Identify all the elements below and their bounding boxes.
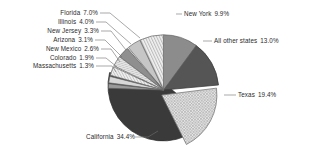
slice-label-massachusetts-name: Massachusetts xyxy=(33,62,76,69)
slice-label-new-york: New York9.9% xyxy=(184,10,229,18)
slice-label-texas-value: 19.4% xyxy=(258,91,276,98)
slice-label-florida: Florida7.0% xyxy=(60,9,98,17)
slice-label-illinois-name: Illinois xyxy=(58,18,76,25)
slice-label-massachusetts: Massachusetts1.3% xyxy=(33,62,94,70)
slice-label-illinois: Illinois4.0% xyxy=(58,18,94,26)
slice-label-all-other-states-name: All other states xyxy=(214,37,257,44)
slice-label-arizona-name: Arizona xyxy=(53,36,75,43)
slice-label-texas: Texas19.4% xyxy=(238,91,276,99)
slice-label-new-mexico-name: New Mexico xyxy=(46,45,81,52)
slice-label-new-jersey-value: 3.3% xyxy=(84,27,99,34)
slice-label-colorado: Colorado1.9% xyxy=(50,54,94,62)
slice-label-florida-value: 7.0% xyxy=(83,9,98,16)
leader-arizona xyxy=(95,40,122,57)
slice-label-arizona: Arizona3.1% xyxy=(53,36,93,44)
leader-illinois xyxy=(96,22,131,44)
slice-label-new-jersey: New Jersey3.3% xyxy=(47,27,99,35)
slice-label-all-other-states: All other states13.0% xyxy=(214,37,279,45)
leader-new-jersey xyxy=(101,31,126,50)
slice-label-california-value: 34.4% xyxy=(117,133,135,140)
slice-label-new-york-name: New York xyxy=(184,10,211,17)
slice-label-new-mexico: New Mexico2.6% xyxy=(46,45,99,53)
pie-chart-graphic xyxy=(0,0,313,159)
slice-label-massachusetts-value: 1.3% xyxy=(79,62,94,69)
slice-label-california-name: California xyxy=(86,133,114,140)
slice-label-florida-name: Florida xyxy=(60,9,80,16)
slice-label-california: California34.4% xyxy=(86,133,135,141)
slice-label-texas-name: Texas xyxy=(238,91,255,98)
slice-label-colorado-name: Colorado xyxy=(50,54,76,61)
slice-label-new-jersey-name: New Jersey xyxy=(47,27,81,34)
slice-label-illinois-value: 4.0% xyxy=(79,18,94,25)
slice-label-colorado-value: 1.9% xyxy=(79,54,94,61)
slice-label-arizona-value: 3.1% xyxy=(78,36,93,43)
slice-label-new-york-value: 9.9% xyxy=(214,10,229,17)
slice-label-new-mexico-value: 2.6% xyxy=(84,45,99,52)
pie-chart-figure: Florida7.0% Illinois4.0% New Jersey3.3% … xyxy=(0,0,313,159)
slice-label-all-other-states-value: 13.0% xyxy=(260,37,278,44)
